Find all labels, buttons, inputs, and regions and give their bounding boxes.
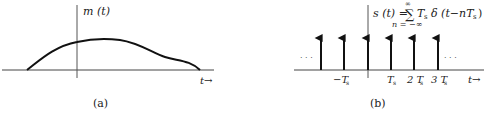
svg-text:s: s xyxy=(444,79,447,86)
ellipsis-right: · · · xyxy=(444,53,457,62)
formula-delta: δ (t−nT xyxy=(431,7,475,20)
svg-text:s: s xyxy=(393,79,396,86)
tick-label-2ts: 2 T s xyxy=(406,74,425,86)
panel-b: · · · · · · s (t) = ∑ ∞ n = −∞ T s δ (t−… xyxy=(294,0,484,110)
svg-text:s: s xyxy=(346,79,349,86)
formula-close: ) xyxy=(478,7,482,20)
panel-a-t-arrow-label: t→ xyxy=(200,75,213,86)
tick-label-3ts: 3 T s xyxy=(431,74,449,86)
caption-a: (a) xyxy=(93,97,108,110)
formula-delta-sub: s xyxy=(473,13,477,21)
svg-text:s: s xyxy=(420,79,423,86)
message-signal-curve xyxy=(27,39,200,70)
m-t-label: m (t) xyxy=(83,5,110,18)
formula-lhs: s (t) = xyxy=(373,7,408,20)
panel-a: m (t) t→ (a) xyxy=(2,5,214,110)
tick-label-neg-ts: −T s xyxy=(333,74,349,86)
figure-canvas: m (t) t→ (a) · · · · · · s (t) = ∑ ∞ n =… xyxy=(0,0,484,133)
panel-b-t-arrow-label: t→ xyxy=(468,74,481,85)
formula-sum-upper: ∞ xyxy=(405,0,411,8)
sampling-formula: s (t) = ∑ ∞ n = −∞ T s δ (t−nT s ) xyxy=(373,0,482,29)
formula-term-sub: s xyxy=(424,13,428,21)
tick-label-ts: T s xyxy=(387,74,396,86)
ellipsis-left: · · · xyxy=(300,53,313,62)
caption-b: (b) xyxy=(370,97,386,110)
formula-sum-lower: n = −∞ xyxy=(392,20,422,29)
